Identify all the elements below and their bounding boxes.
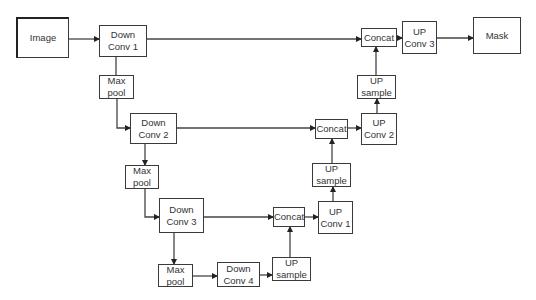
node-label: Mask — [486, 30, 509, 42]
node-label: sample — [316, 175, 347, 187]
node-label: Down — [141, 117, 165, 129]
node-label: sample — [276, 269, 307, 281]
unet-diagram: ImageDownConv 1MaxpoolDownConv 2MaxpoolD… — [0, 0, 536, 300]
node-up-conv-1: UPConv 1 — [318, 201, 353, 234]
node-label: Concat — [364, 32, 394, 44]
node-down-conv-4: DownConv 4 — [217, 262, 260, 287]
edge-layer — [0, 0, 536, 300]
node-down-conv-3: DownConv 3 — [159, 198, 204, 233]
node-image: Image — [16, 17, 69, 58]
node-label: UP — [329, 206, 342, 218]
node-label: UP — [285, 257, 298, 269]
node-label: Conv 2 — [138, 129, 168, 141]
node-down-conv-1: DownConv 1 — [99, 25, 147, 57]
node-up-sample-3: UPsample — [357, 75, 396, 99]
node-mask: Mask — [473, 17, 521, 54]
node-concat-3: Concat — [361, 28, 397, 47]
node-label: Down — [226, 263, 250, 275]
node-label: Image — [30, 32, 56, 44]
node-label: pool — [167, 276, 185, 288]
node-up-conv-2: UPConv 2 — [361, 113, 397, 145]
node-label: UP — [413, 26, 426, 38]
node-label: Concat — [316, 123, 346, 135]
node-label: Conv 1 — [320, 218, 350, 230]
node-label: Conv 4 — [223, 275, 253, 287]
node-label: UP — [370, 75, 383, 87]
node-up-sample-2: UPsample — [312, 163, 351, 187]
node-concat-2: Concat — [315, 119, 348, 139]
node-label: Concat — [274, 211, 304, 223]
node-up-conv-3: UPConv 3 — [402, 21, 437, 54]
node-label: Max — [108, 75, 126, 87]
node-label: Conv 3 — [404, 38, 434, 50]
node-max-pool-3: Maxpool — [158, 264, 193, 287]
edge-max_pool_2-to-down_conv_3 — [145, 189, 159, 217]
node-label: pool — [133, 177, 151, 189]
node-max-pool-1: Maxpool — [99, 75, 134, 99]
node-label: Max — [133, 165, 151, 177]
node-label: UP — [325, 163, 338, 175]
node-label: Conv 1 — [108, 41, 138, 53]
node-label: Conv 3 — [166, 216, 196, 228]
node-label: sample — [361, 87, 392, 99]
node-label: Conv 2 — [364, 129, 394, 141]
edge-max_pool_1-to-down_conv_2 — [117, 99, 130, 128]
node-label: Down — [111, 29, 135, 41]
node-up-sample-1: UPsample — [272, 257, 311, 281]
node-label: pool — [108, 87, 126, 99]
node-concat-1: Concat — [273, 207, 305, 227]
node-max-pool-2: Maxpool — [125, 165, 159, 189]
node-label: UP — [372, 117, 385, 129]
node-label: Max — [167, 264, 185, 276]
node-down-conv-2: DownConv 2 — [130, 113, 177, 144]
node-label: Down — [169, 204, 193, 216]
